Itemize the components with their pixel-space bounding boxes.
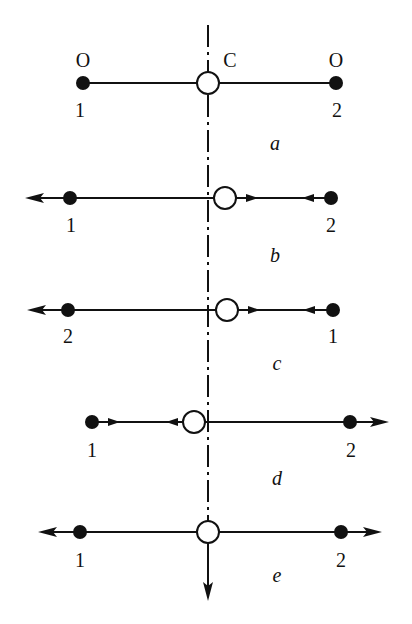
atom-index-left: 1 <box>75 549 85 571</box>
atom-index-right: 1 <box>328 325 338 347</box>
atom-2 <box>334 525 348 539</box>
panel-a: O O C 1 2 a <box>75 49 343 154</box>
arrow-right-icon <box>248 306 260 314</box>
arrow-left-icon <box>166 418 178 426</box>
arrow-right-icon <box>108 418 120 426</box>
atom-2 <box>343 415 357 429</box>
arrow-left-icon <box>303 306 315 314</box>
panel-caption: a <box>270 132 280 154</box>
panel-c: 2 1 c <box>27 299 340 374</box>
atom-1 <box>85 415 99 429</box>
atom-index-left: 1 <box>75 99 85 121</box>
carbon-atom <box>197 72 219 94</box>
atom-symbol-right: O <box>329 49 343 71</box>
oxygen-atom-2 <box>329 76 343 90</box>
atom-symbol-center: C <box>223 49 236 71</box>
atom-index-right: 2 <box>326 214 336 236</box>
atom-2 <box>324 191 338 205</box>
carbon-atom <box>183 411 205 433</box>
carbon-atom <box>216 299 238 321</box>
atom-1 <box>63 191 77 205</box>
panel-caption: c <box>273 352 282 374</box>
panel-caption: e <box>273 564 282 586</box>
arrow-right-icon <box>246 194 258 202</box>
atom-index-left: 2 <box>63 325 73 347</box>
molecule-vibration-diagram: O O C 1 2 a 1 2 b 2 1 c <box>0 0 412 624</box>
atom-index-right: 2 <box>346 439 356 461</box>
atom-1 <box>326 303 340 317</box>
carbon-atom <box>197 521 219 543</box>
panel-caption: d <box>272 467 283 489</box>
oxygen-atom-1 <box>76 76 90 90</box>
arrow-left-icon <box>302 194 314 202</box>
atom-2 <box>61 303 75 317</box>
diagram-canvas: O O C 1 2 a 1 2 b 2 1 c <box>0 0 412 624</box>
carbon-atom <box>214 187 236 209</box>
atom-1 <box>73 525 87 539</box>
panel-caption: b <box>270 244 280 266</box>
atom-index-right: 2 <box>332 99 342 121</box>
atom-symbol-left: O <box>76 49 90 71</box>
atom-index-left: 1 <box>87 439 97 461</box>
atom-index-left: 1 <box>66 214 76 236</box>
panel-e: 1 2 e <box>38 521 382 601</box>
panel-b: 1 2 b <box>25 187 338 266</box>
panel-d: 1 2 d <box>85 411 389 489</box>
atom-index-right: 2 <box>336 549 346 571</box>
